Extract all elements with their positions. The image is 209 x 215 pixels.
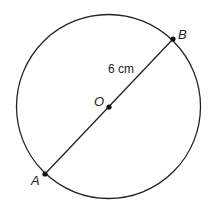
point-o-label: O	[94, 94, 104, 109]
circle-diagram: B O A 6 cm	[0, 0, 209, 215]
length-label: 6 cm	[108, 62, 134, 76]
point-b-dot	[170, 36, 175, 41]
point-a-dot	[42, 171, 47, 176]
point-a-label: A	[30, 173, 40, 188]
point-b-label: B	[178, 27, 187, 42]
point-o-dot	[106, 104, 111, 109]
